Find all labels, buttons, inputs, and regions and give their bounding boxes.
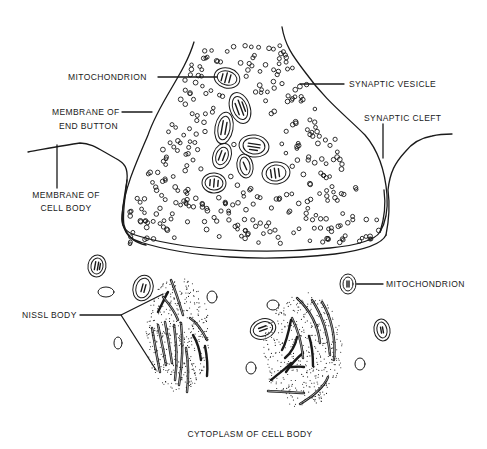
ribosome-stipple xyxy=(146,278,343,406)
label-membrane-cell-body-1: MEMBRANE OF xyxy=(28,190,104,201)
cytoplasm-mitochondria xyxy=(86,254,392,374)
label-mitochondrion-top: MITOCHONDRION xyxy=(68,72,147,83)
cell-body-membrane-right xyxy=(386,134,452,235)
label-synaptic-cleft: SYNAPTIC CLEFT xyxy=(364,113,441,124)
mitochondria-cluster xyxy=(201,65,291,194)
label-mitochondrion-right: MITOCHONDRION xyxy=(386,279,465,290)
label-nissl-body: NISSL BODY xyxy=(22,310,77,321)
end-button-membrane-left xyxy=(122,42,194,234)
synapse-diagram: MITOCHONDRION SYNAPTIC VESICLE MEMBRANE … xyxy=(0,0,487,449)
caption: CYTOPLASM OF CELL BODY xyxy=(140,429,360,440)
diagram-drawing xyxy=(0,0,487,449)
label-synaptic-vesicle: SYNAPTIC VESICLE xyxy=(349,79,436,90)
label-membrane-end-button-2: END BUTTON xyxy=(52,121,118,132)
label-membrane-cell-body-2: CELL BODY xyxy=(28,203,104,214)
label-membrane-end-button-1: MEMBRANE OF xyxy=(52,107,118,118)
